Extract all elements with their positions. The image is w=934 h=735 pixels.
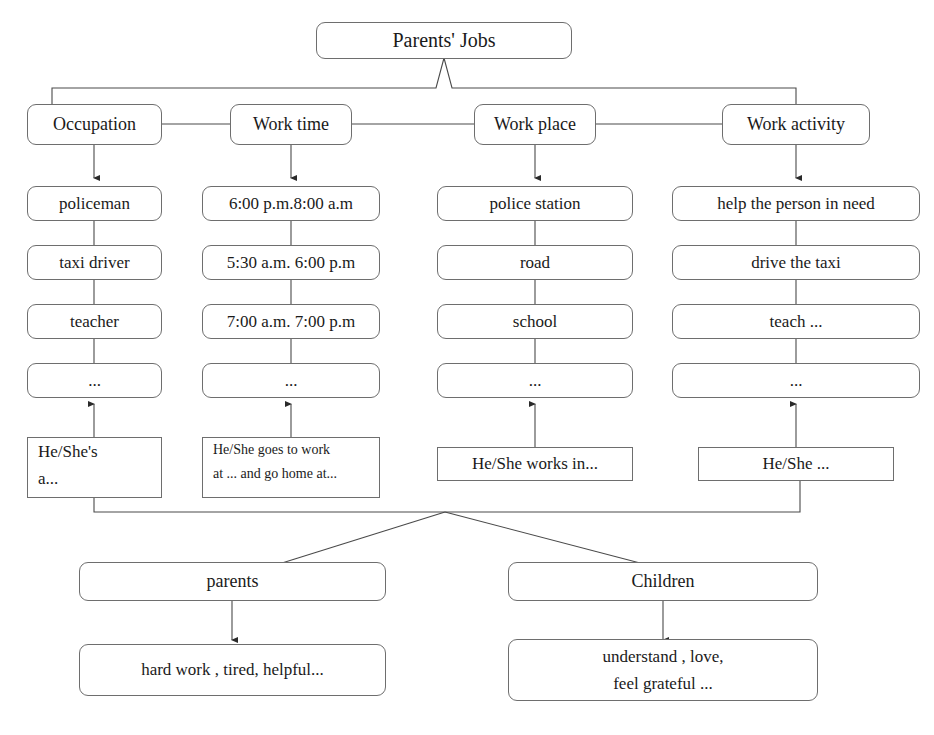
sentence-line-1: He/She works in... [472, 453, 598, 474]
sentence-line-1: He/She's [38, 441, 98, 462]
occupation-item-4[interactable]: ... [27, 363, 162, 398]
category-label: Work activity [747, 113, 845, 136]
occupation-item-1[interactable]: policeman [27, 186, 162, 221]
outcome-parents[interactable]: parents [79, 562, 386, 601]
sentence-line-1: He/She goes to work [213, 441, 330, 459]
sentence-line-2: at ... and go home at... [213, 465, 337, 483]
item-label: policeman [59, 193, 130, 214]
result-line-1: understand , love, [603, 646, 724, 667]
work-place-item-4[interactable]: ... [437, 363, 633, 398]
work-activity-item-3[interactable]: teach ... [672, 304, 920, 339]
category-work-place[interactable]: Work place [474, 104, 596, 145]
work-activity-item-1[interactable]: help the person in need [672, 186, 920, 221]
title-label: Parents' Jobs [392, 28, 495, 53]
category-label: Occupation [53, 113, 136, 136]
category-label: Work place [494, 113, 576, 136]
item-label: teach ... [770, 311, 823, 332]
result-parents[interactable]: hard work , tired, helpful... [79, 644, 386, 696]
occupation-item-3[interactable]: teacher [27, 304, 162, 339]
work-place-item-3[interactable]: school [437, 304, 633, 339]
occupation-item-2[interactable]: taxi driver [27, 245, 162, 280]
item-label: 6:00 p.m.8:00 a.m [229, 193, 353, 214]
item-label: drive the taxi [751, 252, 841, 273]
item-label: police station [489, 193, 580, 214]
result-children[interactable]: understand , love, feel grateful ... [508, 639, 818, 701]
work-place-item-1[interactable]: police station [437, 186, 633, 221]
item-label: school [513, 311, 557, 332]
outcome-label: Children [632, 570, 695, 593]
work-place-item-2[interactable]: road [437, 245, 633, 280]
result-line-1: hard work , tired, helpful... [141, 659, 324, 680]
work-activity-sentence-box[interactable]: He/She ... [698, 447, 894, 481]
sentence-line-1: He/She ... [762, 453, 829, 474]
work-activity-item-4[interactable]: ... [672, 363, 920, 398]
category-occupation[interactable]: Occupation [27, 104, 162, 145]
item-label: ... [285, 370, 298, 391]
item-label: 7:00 a.m. 7:00 p.m [227, 311, 355, 332]
category-label: Work time [253, 113, 329, 136]
item-label: taxi driver [59, 252, 129, 273]
item-label: 5:30 a.m. 6:00 p.m [227, 252, 355, 273]
item-label: ... [790, 370, 803, 391]
item-label: teacher [70, 311, 119, 332]
work-time-item-1[interactable]: 6:00 p.m.8:00 a.m [202, 186, 380, 221]
result-line-2: feel grateful ... [613, 673, 713, 694]
mind-map-diagram: Parents' Jobs Occupation Work time Work … [0, 0, 934, 735]
outcome-children[interactable]: Children [508, 562, 818, 601]
work-time-item-2[interactable]: 5:30 a.m. 6:00 p.m [202, 245, 380, 280]
item-label: ... [88, 370, 101, 391]
work-activity-item-2[interactable]: drive the taxi [672, 245, 920, 280]
work-time-item-4[interactable]: ... [202, 363, 380, 398]
item-label: road [520, 252, 550, 273]
category-work-time[interactable]: Work time [230, 104, 352, 145]
category-work-activity[interactable]: Work activity [722, 104, 870, 145]
title-box[interactable]: Parents' Jobs [316, 22, 572, 59]
work-time-sentence-box[interactable]: He/She goes to work at ... and go home a… [202, 437, 380, 498]
work-time-item-3[interactable]: 7:00 a.m. 7:00 p.m [202, 304, 380, 339]
item-label: help the person in need [717, 193, 875, 214]
outcome-label: parents [207, 570, 259, 593]
work-place-sentence-box[interactable]: He/She works in... [437, 447, 633, 481]
sentence-line-2: a... [38, 468, 58, 489]
item-label: ... [529, 370, 542, 391]
occupation-sentence-box[interactable]: He/She's a... [27, 437, 162, 498]
